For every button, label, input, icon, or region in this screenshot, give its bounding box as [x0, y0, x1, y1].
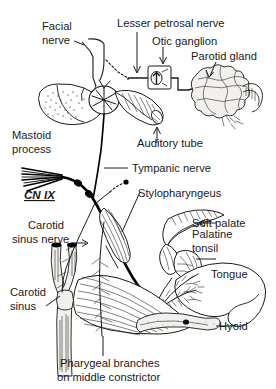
- facial-nerve-dotted-link: [106, 60, 128, 78]
- label-mastoid-process-line1: Mastoid: [12, 129, 51, 141]
- label-pharyngeal-branches-line1: Pharygeal branches: [60, 357, 160, 369]
- tympanic-plexus-drawing: [89, 80, 119, 114]
- stylopharyngeus-muscle-drawing: [100, 208, 131, 263]
- label-carotid-sinus-line2: sinus: [10, 300, 37, 312]
- label-carotid-sinus-nerve-line2: sinus nerve: [12, 233, 69, 245]
- label-parotid-gland: Parotid gland: [191, 50, 257, 62]
- parotid-gland-drawing: [191, 65, 262, 129]
- label-tongue: Tongue: [211, 268, 248, 280]
- auditory-tube-drawing: [115, 90, 165, 125]
- otic-ganglion-drawing: [148, 66, 171, 89]
- label-cn-ix: CN IX: [24, 188, 56, 201]
- label-facial-nerve-line2: nerve: [42, 34, 70, 46]
- tympanic-nerve-drawing: [93, 114, 104, 199]
- label-tympanic-nerve: Tympanic nerve: [132, 162, 211, 174]
- label-palatine-tonsil-line1: Palatine: [192, 228, 232, 240]
- label-stylopharyngeus: Stylopharyngeus: [138, 187, 222, 199]
- label-lesser-petrosal-nerve: Lesser petrosal nerve: [117, 17, 225, 29]
- label-carotid-sinus-line1: Carotid: [10, 286, 46, 298]
- label-palatine-tonsil-line2: tonsil: [192, 242, 218, 254]
- stylopharyngeus-branch: [95, 179, 129, 204]
- label-carotid-sinus-nerve-line1: Carotid: [28, 219, 64, 231]
- label-hyoid: Hyoid: [219, 320, 248, 332]
- label-otic-ganglion: Otic ganglion: [152, 35, 217, 47]
- label-facial-nerve-line1: Facial: [42, 20, 72, 32]
- label-pharyngeal-branches-line2: on middle constrictor: [57, 371, 160, 383]
- anatomy-figure: Facial nerve Lesser petrosal nerve Otic …: [0, 0, 276, 389]
- label-mastoid-process-line2: process: [12, 143, 52, 155]
- label-auditory-tube: Auditory tube: [137, 137, 203, 149]
- carotid-arteries-drawing: [51, 243, 77, 376]
